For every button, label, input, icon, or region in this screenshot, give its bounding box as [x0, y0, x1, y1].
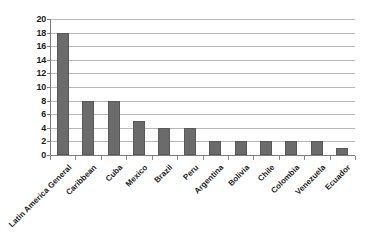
- y-axis-tick-label: 10: [6, 83, 46, 92]
- y-axis-tick-label: 6: [6, 110, 46, 119]
- bar-slot: [75, 19, 100, 155]
- y-axis-tick-label: 2: [6, 137, 46, 146]
- bar[interactable]: [108, 101, 120, 155]
- bar-chart: 02468101214161820 Latin America GeneralC…: [0, 0, 369, 239]
- x-axis-tick-mark: [50, 156, 51, 160]
- x-axis-tick-mark: [304, 156, 305, 160]
- bar-slot: [304, 19, 329, 155]
- bar-slot: [203, 19, 228, 155]
- y-axis-tick-label: 0: [6, 151, 46, 160]
- bar-slot: [126, 19, 151, 155]
- x-axis-tick-mark: [355, 156, 356, 160]
- bar-slot: [228, 19, 253, 155]
- y-axis-tick-label: 12: [6, 69, 46, 78]
- bar[interactable]: [184, 128, 196, 155]
- bar[interactable]: [285, 141, 297, 155]
- y-axis-tick-label: 4: [6, 124, 46, 133]
- bar[interactable]: [158, 128, 170, 155]
- x-axis-tick-mark: [228, 156, 229, 160]
- bar[interactable]: [57, 33, 69, 155]
- bar[interactable]: [133, 121, 145, 155]
- x-axis-tick-mark: [330, 156, 331, 160]
- bar[interactable]: [82, 101, 94, 155]
- bar[interactable]: [336, 148, 348, 155]
- y-axis-tick-label: 20: [6, 15, 46, 24]
- bar-series: [50, 19, 355, 155]
- bar-slot: [253, 19, 278, 155]
- bar[interactable]: [235, 141, 247, 155]
- bar-slot: [177, 19, 202, 155]
- x-axis-tick-mark: [101, 156, 102, 160]
- x-axis-tick-mark: [75, 156, 76, 160]
- bar[interactable]: [209, 141, 221, 155]
- x-axis-category-label: Mexico: [0, 163, 149, 239]
- x-axis-tick-mark: [126, 156, 127, 160]
- y-axis-tick-label: 8: [6, 97, 46, 106]
- y-axis-tick-label: 16: [6, 42, 46, 51]
- bar-slot: [330, 19, 355, 155]
- x-axis-tick-mark: [177, 156, 178, 160]
- bar[interactable]: [260, 141, 272, 155]
- x-axis-tick-mark: [253, 156, 254, 160]
- x-axis-tick-mark: [279, 156, 280, 160]
- y-axis-tick-label: 14: [6, 56, 46, 65]
- bar-slot: [101, 19, 126, 155]
- bar[interactable]: [311, 141, 323, 155]
- x-axis-tick-mark: [203, 156, 204, 160]
- bar-slot: [50, 19, 75, 155]
- y-axis-tick-label: 18: [6, 29, 46, 38]
- bar-slot: [279, 19, 304, 155]
- x-axis-tick-mark: [152, 156, 153, 160]
- bar-slot: [152, 19, 177, 155]
